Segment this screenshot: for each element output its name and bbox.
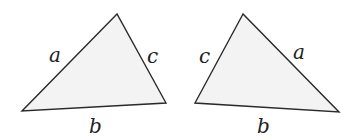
right-side-a-label: a (293, 40, 305, 64)
triangle-diagram: a c b c a b (0, 0, 350, 140)
right-triangle-shape (195, 14, 339, 112)
left-triangle: a c b (22, 14, 166, 138)
left-triangle-shape (22, 14, 166, 111)
right-side-b-label: b (257, 114, 270, 138)
left-side-b-label: b (89, 114, 102, 138)
right-side-c-label: c (199, 44, 210, 68)
left-side-a-label: a (49, 43, 61, 67)
left-side-c-label: c (147, 44, 158, 68)
right-triangle: c a b (195, 14, 339, 138)
